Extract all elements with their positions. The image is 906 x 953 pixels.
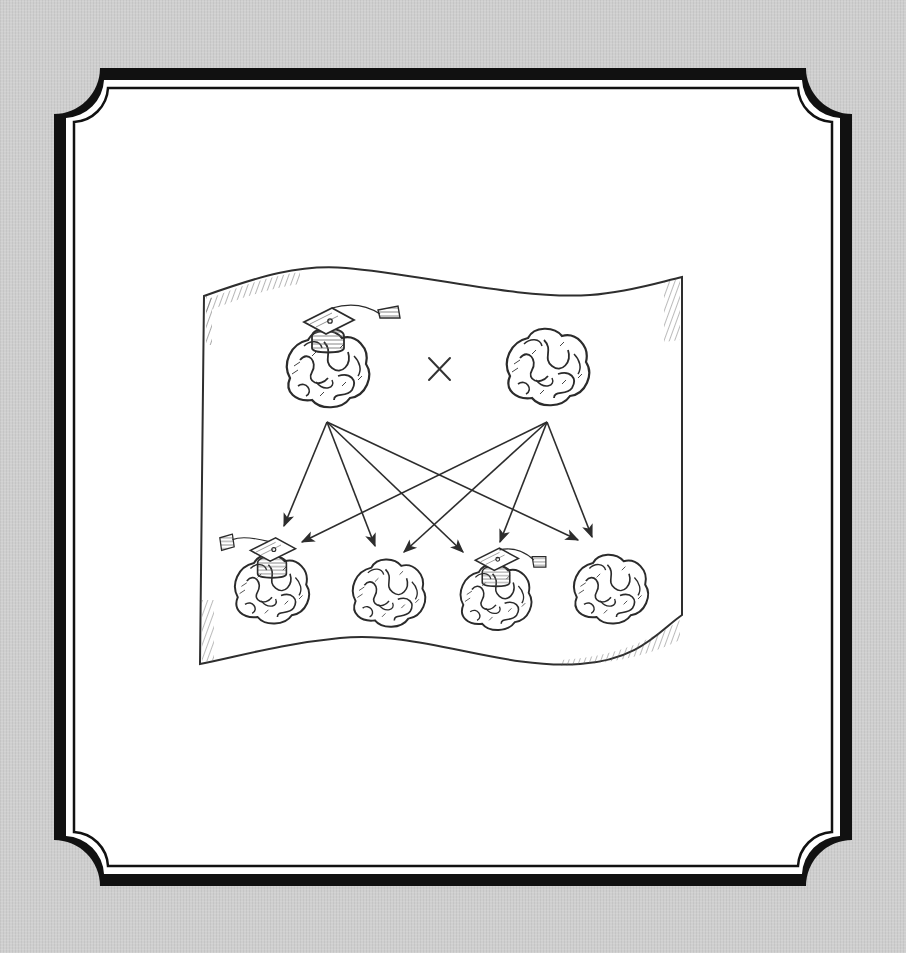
offspring-brain-4-plain xyxy=(574,555,648,624)
offspring-brain-2-plain xyxy=(353,559,425,626)
illustration-stage xyxy=(0,0,906,953)
parent-brain-plain xyxy=(507,329,589,406)
